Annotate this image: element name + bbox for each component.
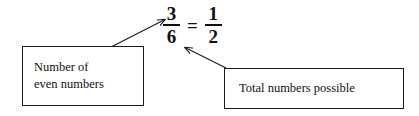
right-fraction-denominator: 2 [207,27,221,46]
left-fraction-numerator: 3 [165,4,179,23]
diagram-canvas: 3 6 = 1 2 Number of even numbers Total n… [0,0,419,116]
callout-left-line-2: even numbers [34,76,143,93]
arrow-to-denominator [185,48,226,69]
equals-sign: = [187,16,198,35]
right-fraction-numerator: 1 [207,4,221,23]
right-fraction: 1 2 [205,4,222,46]
arrow-to-numerator [112,20,165,47]
callout-box-total-numbers: Total numbers possible [224,68,404,109]
callout-left-line-1: Number of [34,59,143,76]
fraction-equation: 3 6 = 1 2 [163,4,222,46]
callout-right-line-1: Total numbers possible [239,80,403,97]
left-fraction-denominator: 6 [165,27,179,46]
callout-box-even-numbers: Number of even numbers [22,46,144,106]
left-fraction: 3 6 [163,4,180,46]
